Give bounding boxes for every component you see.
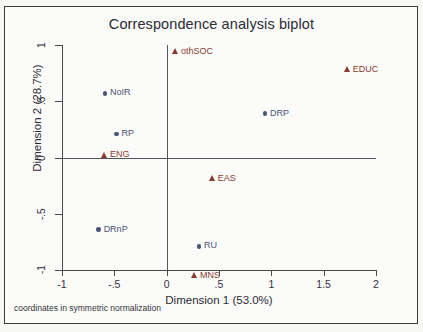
data-point-label: RU: [204, 240, 217, 250]
data-point-label: DRP: [270, 108, 289, 118]
circle-marker-icon: [114, 132, 119, 137]
x-axis-tick: [376, 270, 377, 276]
x-axis-tick-label: -.5: [99, 278, 129, 290]
x-axis-tick: [114, 270, 115, 276]
data-point-label: DRnP: [104, 224, 128, 234]
data-point-label: ENG: [110, 149, 130, 159]
circle-marker-icon: [103, 91, 108, 96]
chart-footnote: coordinates in symmetric normalization: [14, 303, 161, 313]
data-point-label: RP: [121, 128, 134, 138]
circle-marker-icon: [263, 111, 268, 116]
x-axis-tick-label: 2: [361, 278, 391, 290]
triangle-marker-icon: [172, 48, 178, 54]
triangle-marker-icon: [344, 66, 350, 72]
triangle-marker-icon: [101, 152, 107, 158]
data-point-label: EDUC: [353, 64, 379, 74]
x-axis-tick: [324, 270, 325, 276]
circle-marker-icon: [96, 227, 101, 232]
chart-title: Correspondence analysis biplot: [0, 16, 423, 32]
y-axis-title: Dimension 2 (28.7%): [31, 18, 43, 218]
x-axis-tick-label: 1: [256, 278, 286, 290]
x-axis-tick: [271, 270, 272, 276]
correspondence-biplot-figure: Correspondence analysis biplot -1-.50.51…: [0, 0, 423, 332]
x-axis-tick-label: 1.5: [309, 278, 339, 290]
data-point-label: MNS: [200, 270, 220, 280]
x-axis-tick: [167, 270, 168, 276]
plot-area: NoIRRPDRPDRnPRUothSOCEDUCENGEASMNS: [62, 45, 376, 270]
triangle-marker-icon: [191, 272, 197, 278]
data-point-label: NoIR: [110, 87, 131, 97]
x-axis-tick-label: 0: [152, 278, 182, 290]
triangle-marker-icon: [209, 175, 215, 181]
circle-marker-icon: [197, 244, 202, 249]
x-axis-tick-label: .5: [204, 278, 234, 290]
data-point-label: EAS: [218, 173, 236, 183]
data-point-label: othSOC: [181, 46, 213, 56]
